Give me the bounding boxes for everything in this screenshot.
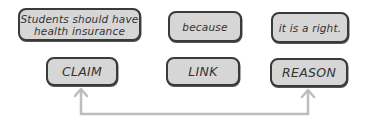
connector-line — [81, 90, 308, 114]
connector-arrow — [0, 0, 365, 125]
